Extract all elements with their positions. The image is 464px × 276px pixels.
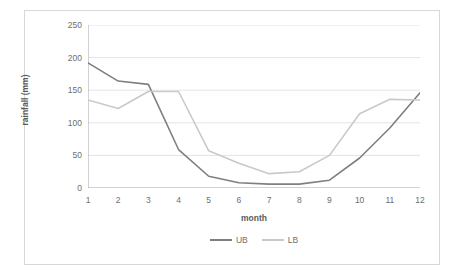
rainfall-line-chart: 050100150200250 123456789101112 rainfall… <box>0 0 464 276</box>
x-tick-label: 1 <box>76 196 100 205</box>
x-tick-label: 8 <box>287 196 311 205</box>
x-tick-label: 12 <box>408 196 432 205</box>
x-tick-label: 11 <box>378 196 402 205</box>
plot-area <box>88 25 420 188</box>
y-axis-title: rainfall (mm) <box>20 55 30 145</box>
x-tick-label: 9 <box>317 196 341 205</box>
legend-swatch-icon <box>262 239 284 241</box>
legend-entry-ub[interactable]: UB <box>210 236 248 245</box>
chart-legend: UBLB <box>88 236 420 245</box>
x-tick-label: 2 <box>106 196 130 205</box>
x-tick-label: 3 <box>136 196 160 205</box>
x-tick-label: 7 <box>257 196 281 205</box>
series-line-lb <box>88 92 420 174</box>
legend-label: UB <box>236 236 248 245</box>
x-axis-title: month <box>88 213 420 223</box>
legend-entry-lb[interactable]: LB <box>262 236 298 245</box>
x-tick-label: 10 <box>348 196 372 205</box>
series-line-ub <box>88 63 420 184</box>
x-tick-label: 6 <box>227 196 251 205</box>
x-tick-label: 5 <box>197 196 221 205</box>
legend-swatch-icon <box>210 239 232 241</box>
x-tick-label: 4 <box>167 196 191 205</box>
plot-svg <box>88 25 420 188</box>
legend-label: LB <box>288 236 298 245</box>
